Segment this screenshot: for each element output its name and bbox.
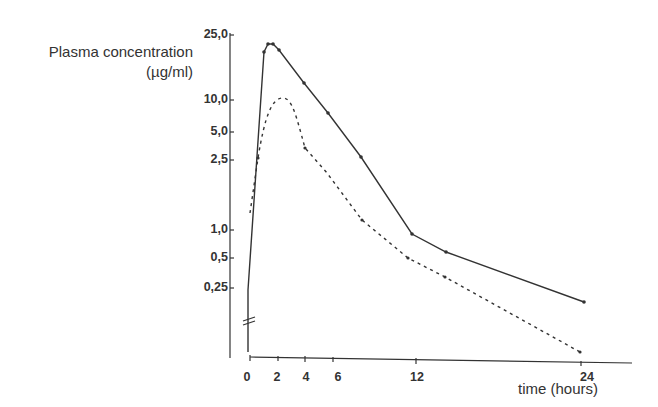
y-axis-unit: (µg/ml) bbox=[33, 63, 193, 80]
y-tick-label: 1,0 bbox=[178, 222, 228, 236]
y-axis-ticks bbox=[230, 35, 234, 288]
y-tick-label: 10,0 bbox=[178, 92, 228, 106]
x-tick-label: 2 bbox=[262, 370, 292, 384]
x-axis-ticks bbox=[250, 355, 581, 366]
series-dashed-line bbox=[250, 98, 580, 352]
y-tick-label: 25,0 bbox=[178, 27, 228, 41]
y-tick-label: 5,0 bbox=[178, 124, 228, 138]
axis-break-icon bbox=[243, 317, 255, 325]
pharmacokinetic-chart bbox=[0, 0, 658, 407]
x-axis-title: time (hours) bbox=[518, 380, 598, 397]
series-dashed-markers bbox=[256, 146, 581, 353]
y-tick-label: 0,25 bbox=[178, 280, 228, 294]
series-solid-markers bbox=[262, 42, 586, 304]
y-axis-title: Plasma concentration bbox=[33, 43, 193, 60]
x-tick-label: 12 bbox=[402, 370, 432, 384]
x-tick-label: 0 bbox=[232, 370, 262, 384]
x-tick-label: 4 bbox=[291, 370, 321, 384]
series-solid-line bbox=[248, 44, 584, 352]
y-tick-label: 2,5 bbox=[178, 152, 228, 166]
x-axis bbox=[250, 357, 632, 363]
x-tick-label: 6 bbox=[323, 370, 353, 384]
y-tick-label: 0,5 bbox=[178, 250, 228, 264]
